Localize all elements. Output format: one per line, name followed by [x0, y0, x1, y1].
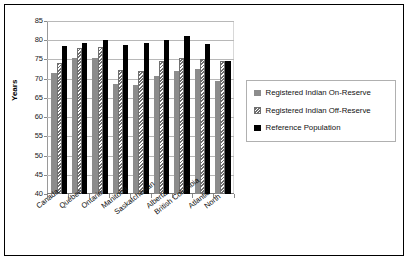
bar-group	[213, 21, 233, 194]
chart-screenshot: Years 40455055606570758085 CanadaQuébecO…	[0, 0, 410, 269]
chart-frame: Years 40455055606570758085 CanadaQuébecO…	[4, 4, 404, 256]
bar-group	[172, 21, 192, 194]
y-axis-tick-label: 50	[35, 152, 43, 160]
y-axis-tick-label: 80	[35, 36, 43, 44]
legend-label-off-reserve: Registered Indian Off-Reserve	[266, 106, 371, 117]
x-axis-labels: CanadaQuébecOntarioManitobaSaskatchewanA…	[5, 198, 255, 258]
y-axis-tick-label: 60	[35, 113, 43, 121]
legend-label-reference-population: Reference Population	[266, 123, 341, 134]
y-axis-tick-label: 70	[35, 75, 43, 83]
page-margin	[0, 260, 410, 269]
bar	[225, 61, 230, 194]
bar-groups	[47, 21, 234, 194]
chart-legend: Registered Indian On-Reserve Registered …	[246, 80, 396, 142]
bar	[205, 44, 210, 194]
legend-swatch-off-reserve	[254, 107, 261, 114]
y-axis-tick-label: 55	[35, 133, 43, 141]
bar	[123, 45, 128, 194]
bar-group	[90, 21, 110, 194]
y-axis-tick-label: 85	[35, 17, 43, 25]
bar-group	[110, 21, 130, 194]
legend-item-on-reserve: Registered Indian On-Reserve	[254, 88, 389, 99]
bar-group	[69, 21, 89, 194]
y-axis-tick-label: 65	[35, 94, 43, 102]
legend-item-reference-population: Reference Population	[254, 123, 389, 134]
legend-swatch-reference-population	[254, 125, 261, 132]
bar-group	[49, 21, 69, 194]
bar	[184, 36, 189, 194]
bar	[62, 46, 67, 194]
bar-group	[151, 21, 171, 194]
bar-group	[192, 21, 212, 194]
y-axis-title: Years	[10, 80, 19, 101]
bar	[82, 43, 87, 194]
y-axis-tick-label: 75	[35, 56, 43, 64]
legend-label-on-reserve: Registered Indian On-Reserve	[266, 88, 371, 99]
bar	[103, 40, 108, 194]
bar-group	[131, 21, 151, 194]
bar	[144, 43, 149, 194]
legend-item-off-reserve: Registered Indian Off-Reserve	[254, 106, 389, 117]
y-axis-tick-label: 45	[35, 171, 43, 179]
legend-swatch-on-reserve	[254, 90, 261, 97]
bar	[164, 40, 169, 194]
plot-area-wrapper: 40455055606570758085	[47, 21, 234, 194]
